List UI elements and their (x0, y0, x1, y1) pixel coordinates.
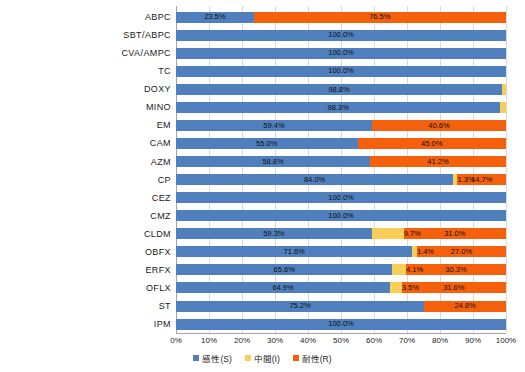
stacked-bar: 59.4%40.6% (176, 120, 506, 131)
bar-rows: ABPC23.5%76.5%SBT/ABPC100.0%CVA/AMPC100.… (176, 8, 506, 333)
segment-value-label: 27.0% (451, 248, 472, 256)
category-label-cam: CAM (150, 138, 171, 148)
bar-segment-s: 58.8% (176, 156, 370, 167)
x-tick-label: 80% (432, 336, 448, 345)
stacked-bar-chart: ABPC23.5%76.5%SBT/ABPC100.0%CVA/AMPC100.… (0, 0, 525, 372)
stacked-bar: 98.8%1.2% (176, 84, 506, 95)
bar-row: OFLX64.9%3.5%31.6% (176, 279, 506, 297)
stacked-bar: 55.0%45.0% (176, 138, 506, 149)
segment-value-label: 100.0% (328, 49, 353, 57)
stacked-bar: 98.3%1.7% (176, 102, 506, 113)
segment-value-label: 30.3% (445, 266, 466, 274)
bar-row: CVA/AMPC100.0% (176, 44, 506, 62)
category-label-ipm: IPM (154, 319, 171, 329)
bar-segment-s: 55.0% (176, 138, 358, 149)
legend-swatch-icon (293, 355, 299, 361)
bar-segment-s: 98.8% (176, 84, 502, 95)
bar-row: CEZ100.0% (176, 189, 506, 207)
bar-segment-s: 84.0% (176, 174, 453, 185)
segment-value-label: 100.0% (328, 320, 353, 328)
bar-segment-s: 100.0% (176, 66, 506, 77)
segment-value-label: 14.7% (471, 176, 492, 184)
stacked-bar: 100.0% (176, 48, 506, 59)
segment-value-label: 40.6% (428, 122, 449, 130)
stacked-bar: 58.8%41.2% (176, 156, 506, 167)
x-tick-label: 20% (234, 336, 250, 345)
segment-value-label: 1.4% (417, 248, 434, 256)
legend-label: 耐性(R) (302, 352, 332, 364)
stacked-bar: 75.2%24.8% (176, 301, 506, 312)
category-label-cldm: CLDM (144, 229, 171, 239)
bar-row: AZM58.8%41.2% (176, 153, 506, 171)
category-label-em: EM (157, 120, 171, 130)
gridline (506, 6, 507, 333)
segment-value-label: 98.8% (328, 86, 349, 94)
segment-value-label: 75.2% (289, 302, 310, 310)
segment-value-label: 65.6% (274, 266, 295, 274)
segment-value-label: 55.0% (256, 140, 277, 148)
segment-value-label: 31.0% (444, 230, 465, 238)
legend-item-3[interactable]: 耐性(R) (293, 352, 332, 364)
bar-row: ST75.2%24.8% (176, 297, 506, 315)
category-label-mino: MINO (146, 102, 171, 112)
bar-row: ERFX65.6%4.1%30.3% (176, 261, 506, 279)
x-axis-tick-labels: 0%10%20%30%40%50%60%70%80%90%100% (176, 336, 506, 348)
stacked-bar: 84.0%1.3%14.7% (176, 174, 506, 185)
stacked-bar: 100.0% (176, 66, 506, 77)
category-label-oflx: OFLX (146, 283, 171, 293)
category-label-doxy: DOXY (144, 84, 171, 94)
bar-segment-s: 100.0% (176, 30, 506, 41)
category-label-sbt-abpc: SBT/ABPC (123, 30, 171, 40)
x-tick-label: 50% (333, 336, 349, 345)
bar-segment-r: 40.6% (372, 120, 506, 131)
stacked-bar: 100.0% (176, 192, 506, 203)
segment-value-label: 45.0% (421, 140, 442, 148)
stacked-bar: 59.3%9.7%31.0% (176, 228, 506, 239)
segment-value-label: 41.2% (427, 158, 448, 166)
bar-segment-r: 76.5% (254, 12, 506, 23)
stacked-bar: 64.9%3.5%31.6% (176, 282, 506, 293)
bar-row: DOXY98.8%1.2% (176, 80, 506, 98)
stacked-bar: 71.6%1.4%27.0% (176, 246, 506, 257)
x-tick-label: 40% (300, 336, 316, 345)
segment-value-label: 59.3% (263, 230, 284, 238)
x-tick-label: 70% (399, 336, 415, 345)
category-label-obfx: OBFX (145, 247, 171, 257)
bar-segment-i: 3.5% (390, 282, 402, 293)
bar-row: OBFX71.6%1.4%27.0% (176, 243, 506, 261)
bar-segment-i: 1.3% (453, 174, 457, 185)
segment-value-label: 58.8% (262, 158, 283, 166)
category-label-cez: CEZ (152, 193, 171, 203)
bar-segment-s: 100.0% (176, 319, 506, 330)
bar-row: TC100.0% (176, 62, 506, 80)
category-label-cmz: CMZ (150, 211, 171, 221)
stacked-bar: 100.0% (176, 30, 506, 41)
category-label-azm: AZM (151, 157, 171, 167)
segment-value-label: 3.5% (402, 284, 419, 292)
bar-segment-s: 23.5% (176, 12, 254, 23)
bar-segment-r: 24.8% (424, 301, 506, 312)
stacked-bar: 65.6%4.1%30.3% (176, 264, 506, 275)
segment-value-label: 100.0% (328, 212, 353, 220)
segment-value-label: 100.0% (328, 31, 353, 39)
bar-segment-s: 71.6% (176, 246, 412, 257)
legend-item-1[interactable]: 感性(S) (193, 352, 231, 364)
chart-legend: 感性(S)中間(I)耐性(R) (0, 352, 525, 364)
bar-segment-r: 45.0% (358, 138, 507, 149)
x-tick-label: 0% (170, 336, 182, 345)
bar-segment-s: 98.3% (176, 102, 500, 113)
legend-item-2[interactable]: 中間(I) (245, 352, 280, 364)
x-axis-line (176, 333, 506, 334)
segment-value-label: 31.6% (443, 284, 464, 292)
legend-swatch-icon (245, 355, 251, 361)
bar-segment-i: 1.2% (502, 84, 506, 95)
bar-segment-r: 41.2% (370, 156, 506, 167)
category-label-erfx: ERFX (145, 265, 171, 275)
legend-swatch-icon (193, 355, 199, 361)
bar-segment-s: 64.9% (176, 282, 390, 293)
x-tick-label: 60% (366, 336, 382, 345)
x-tick-label: 90% (465, 336, 481, 345)
segment-value-label: 84.0% (304, 176, 325, 184)
bar-segment-s: 59.4% (176, 120, 372, 131)
segment-value-label: 98.3% (328, 104, 349, 112)
